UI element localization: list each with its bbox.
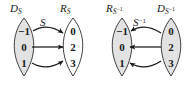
diagram-relation-S: DS RS S −1 0 1 0 — [2, 0, 94, 86]
domain-element-2-right: 3 — [162, 58, 180, 69]
range-element-1-left: 2 — [64, 42, 82, 53]
range-element-0-right: −1 — [112, 26, 132, 37]
range-element-2-left: 3 — [64, 58, 82, 69]
arrow-1-to-3 — [32, 61, 63, 67]
range-element-0-left: 0 — [64, 26, 82, 37]
arrow-neg1-to-0 — [33, 27, 63, 33]
domain-element-0-right: 0 — [162, 26, 180, 37]
domain-element-2-left: 1 — [14, 58, 34, 69]
domain-element-1-left: 0 — [14, 42, 34, 53]
range-element-2-right: 1 — [112, 58, 132, 69]
domain-element-1-right: 2 — [162, 42, 180, 53]
arrow-3-to-1 — [130, 61, 161, 67]
relation-and-inverse-figure: DS RS S −1 0 1 0 — [0, 0, 192, 86]
range-element-1-right: 0 — [112, 42, 132, 53]
arrow-0-to-neg1 — [131, 27, 161, 33]
diagram-relation-S-inverse: RS−1 DS−1 S−1 −1 0 1 0 2 — [100, 0, 192, 86]
domain-element-0-left: −1 — [14, 26, 34, 37]
